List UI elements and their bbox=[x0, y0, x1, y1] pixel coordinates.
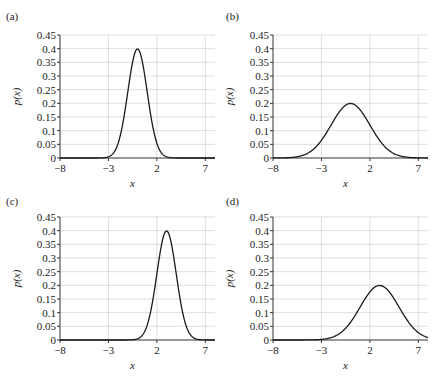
x-axis-label: x bbox=[342, 359, 348, 371]
x-tick-label: −8 bbox=[54, 162, 66, 174]
x-tick-label: −3 bbox=[316, 162, 328, 174]
y-tick-label: 0.35 bbox=[37, 238, 57, 250]
y-tick-label: 0.35 bbox=[37, 56, 57, 68]
chart-a: 00.050.10.150.20.250.30.350.40.45−8−327x… bbox=[0, 0, 220, 189]
y-tick-label: 0.05 bbox=[250, 138, 270, 150]
y-tick-label: 0.3 bbox=[42, 70, 56, 82]
y-tick-label: 0.15 bbox=[37, 293, 57, 305]
x-tick-label: −3 bbox=[316, 344, 328, 356]
panel-a: (a) 00.050.10.150.20.250.30.350.40.45−8−… bbox=[0, 0, 220, 189]
y-tick-label: 0.3 bbox=[42, 252, 56, 264]
y-axis-label: p(x) bbox=[223, 87, 236, 106]
y-tick-label: 0.2 bbox=[42, 97, 56, 109]
x-axis-label: x bbox=[129, 359, 135, 371]
y-tick-label: 0.2 bbox=[255, 279, 269, 291]
x-tick-label: 2 bbox=[154, 344, 160, 356]
y-tick-label: 0.1 bbox=[42, 307, 56, 319]
y-tick-label: 0.25 bbox=[250, 84, 270, 96]
x-tick-label: 7 bbox=[416, 162, 422, 174]
y-tick-label: 0.4 bbox=[255, 225, 269, 237]
x-tick-label: 7 bbox=[203, 344, 209, 356]
y-tick-label: 0.2 bbox=[255, 97, 269, 109]
y-tick-label: 0.1 bbox=[255, 125, 269, 137]
panel-c: (c) 00.050.10.150.20.250.30.350.40.45−8−… bbox=[0, 190, 220, 379]
x-tick-label: 2 bbox=[367, 162, 373, 174]
x-tick-label: 2 bbox=[154, 162, 160, 174]
y-tick-label: 0.25 bbox=[37, 84, 57, 96]
y-tick-label: 0.1 bbox=[255, 307, 269, 319]
x-tick-label: −3 bbox=[103, 344, 115, 356]
chart-c: 00.050.10.150.20.250.30.350.40.45−8−327x… bbox=[0, 190, 220, 379]
y-tick-label: 0.35 bbox=[250, 238, 270, 250]
y-tick-label: 0.35 bbox=[250, 56, 270, 68]
y-tick-label: 0.4 bbox=[255, 43, 269, 55]
chart-d: 00.050.10.150.20.250.30.350.40.45−8−327x… bbox=[220, 190, 441, 379]
x-axis-label: x bbox=[129, 177, 135, 189]
y-tick-label: 0.45 bbox=[250, 211, 270, 223]
y-tick-label: 0.05 bbox=[37, 320, 57, 332]
x-tick-label: 2 bbox=[367, 344, 373, 356]
y-tick-label: 0.3 bbox=[255, 252, 269, 264]
y-tick-label: 0.45 bbox=[250, 29, 270, 41]
y-tick-label: 0.25 bbox=[250, 266, 270, 278]
y-tick-label: 0.25 bbox=[37, 266, 57, 278]
y-tick-label: 0.3 bbox=[255, 70, 269, 82]
y-axis-label: p(x) bbox=[10, 269, 23, 288]
x-axis-label: x bbox=[342, 177, 348, 189]
x-tick-label: −8 bbox=[267, 162, 279, 174]
y-tick-label: 0.05 bbox=[250, 320, 270, 332]
y-tick-label: 0.2 bbox=[42, 279, 56, 291]
chart-b: 00.050.10.150.20.250.30.350.40.45−8−327x… bbox=[220, 0, 441, 189]
x-tick-label: 7 bbox=[203, 162, 209, 174]
x-tick-label: −8 bbox=[54, 344, 66, 356]
y-axis-label: p(x) bbox=[223, 269, 236, 288]
y-tick-label: 0.4 bbox=[42, 225, 56, 237]
x-tick-label: −3 bbox=[103, 162, 115, 174]
y-tick-label: 0.05 bbox=[37, 138, 57, 150]
y-tick-label: 0.15 bbox=[250, 111, 270, 123]
x-tick-label: 7 bbox=[416, 344, 422, 356]
panel-d: (d) 00.050.10.150.20.250.30.350.40.45−8−… bbox=[220, 190, 440, 379]
y-tick-label: 0.15 bbox=[250, 293, 270, 305]
y-tick-label: 0.15 bbox=[37, 111, 57, 123]
y-tick-label: 0.45 bbox=[37, 211, 57, 223]
y-tick-label: 0.4 bbox=[42, 43, 56, 55]
x-tick-label: −8 bbox=[267, 344, 279, 356]
y-tick-label: 0.1 bbox=[42, 125, 56, 137]
y-tick-label: 0.45 bbox=[37, 29, 57, 41]
y-axis-label: p(x) bbox=[10, 87, 23, 106]
panel-b: (b) 00.050.10.150.20.250.30.350.40.45−8−… bbox=[220, 0, 440, 189]
